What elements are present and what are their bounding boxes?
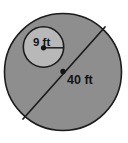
geometry-diagram-svg: 9 ft 40 ft	[0, 0, 128, 143]
geometry-figure: 9 ft 40 ft	[0, 0, 128, 143]
radius-measurement-label: 9 ft	[33, 36, 50, 48]
large-circle-center-point	[60, 69, 65, 74]
diameter-measurement-label: 40 ft	[67, 73, 94, 87]
